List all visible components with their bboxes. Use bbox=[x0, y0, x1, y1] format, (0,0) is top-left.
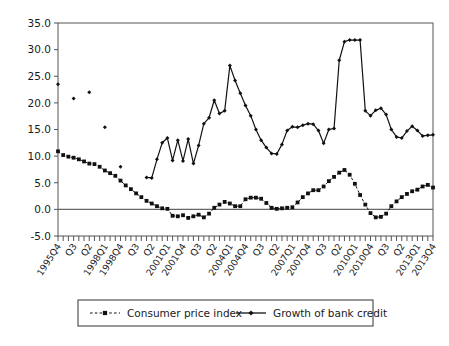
data-point bbox=[233, 204, 237, 208]
data-point bbox=[374, 215, 378, 219]
legend-label: Consumer price index bbox=[127, 307, 242, 319]
data-point bbox=[124, 184, 128, 188]
data-point bbox=[181, 213, 185, 217]
y-axis-ticks bbox=[54, 23, 58, 236]
data-point bbox=[285, 206, 289, 210]
data-point bbox=[301, 195, 305, 199]
data-point bbox=[244, 197, 248, 201]
legend-marker-square bbox=[103, 311, 107, 315]
x-tick-label: Q3 bbox=[125, 241, 141, 258]
data-point bbox=[379, 215, 383, 219]
data-point bbox=[431, 186, 435, 190]
data-point bbox=[400, 195, 404, 199]
data-point bbox=[369, 211, 373, 215]
y-tick-label: 10.0 bbox=[28, 150, 51, 162]
y-axis-labels: 35.030.025.020.015.010.05.00.0-5.0 bbox=[28, 17, 51, 242]
x-tick-label: 1995Q4 bbox=[34, 241, 63, 278]
data-point bbox=[150, 202, 154, 206]
data-point bbox=[363, 203, 367, 207]
y-tick-label: 0.0 bbox=[34, 203, 51, 215]
data-point bbox=[119, 179, 123, 183]
line-chart: 35.030.025.020.015.010.05.00.0-5.0 1995Q… bbox=[0, 0, 449, 346]
data-point bbox=[108, 171, 112, 175]
data-point bbox=[176, 214, 180, 218]
y-tick-label: -5.0 bbox=[31, 230, 52, 242]
y-tick-label: 20.0 bbox=[28, 97, 51, 109]
data-point bbox=[228, 202, 232, 206]
data-point bbox=[249, 196, 253, 200]
x-tick-label: Q3 bbox=[250, 241, 266, 258]
data-point bbox=[275, 207, 279, 211]
data-point bbox=[306, 192, 310, 196]
data-point bbox=[160, 206, 164, 210]
y-tick-label: 15.0 bbox=[28, 123, 51, 135]
data-point bbox=[264, 201, 268, 205]
y-tick-label: 30.0 bbox=[28, 43, 51, 55]
data-point bbox=[353, 182, 357, 186]
data-point bbox=[238, 204, 242, 208]
data-point bbox=[113, 174, 117, 178]
data-point bbox=[348, 173, 352, 177]
x-tick-label: Q3 bbox=[187, 241, 203, 258]
data-point bbox=[290, 205, 294, 209]
y-tick-label: 35.0 bbox=[28, 17, 51, 29]
data-point bbox=[405, 192, 409, 196]
data-point bbox=[410, 189, 414, 193]
data-point bbox=[129, 187, 133, 191]
data-point bbox=[165, 207, 169, 211]
plot-area bbox=[58, 23, 433, 236]
data-point bbox=[343, 168, 347, 172]
data-point bbox=[82, 160, 86, 164]
data-point bbox=[270, 206, 274, 210]
x-tick-label: Q3 bbox=[312, 241, 328, 258]
data-point bbox=[426, 183, 430, 187]
data-point bbox=[197, 213, 201, 217]
data-point bbox=[103, 169, 107, 173]
data-point bbox=[186, 216, 190, 220]
data-point bbox=[358, 193, 362, 197]
x-tick-label: Q3 bbox=[62, 241, 78, 258]
legend-label: Growth of bank credit bbox=[273, 307, 387, 319]
data-point bbox=[145, 199, 149, 203]
data-point bbox=[212, 206, 216, 210]
data-point bbox=[67, 155, 71, 159]
data-point bbox=[421, 185, 425, 189]
data-point bbox=[87, 162, 91, 166]
data-point bbox=[202, 215, 206, 219]
data-point bbox=[171, 214, 175, 218]
x-tick-label: Q3 bbox=[375, 241, 391, 258]
x-axis-labels: 1995Q4Q3Q21998Q11998Q4Q3Q22001Q12001Q4Q3… bbox=[34, 241, 438, 278]
data-point bbox=[72, 156, 76, 160]
y-tick-label: 25.0 bbox=[28, 70, 51, 82]
data-point bbox=[296, 201, 300, 205]
chart-legend: Consumer price indexGrowth of bank credi… bbox=[78, 300, 387, 326]
data-point bbox=[93, 162, 97, 166]
data-point bbox=[322, 185, 326, 189]
data-point bbox=[134, 192, 138, 196]
data-point bbox=[259, 197, 263, 201]
data-point bbox=[384, 212, 388, 216]
data-point bbox=[139, 195, 143, 199]
data-point bbox=[223, 200, 227, 204]
data-point bbox=[155, 204, 159, 208]
chart-container: 35.030.025.020.015.010.05.00.0-5.0 1995Q… bbox=[0, 0, 449, 346]
data-point bbox=[218, 203, 222, 207]
data-point bbox=[98, 165, 102, 169]
data-point bbox=[317, 188, 321, 192]
plot-frame bbox=[58, 23, 433, 236]
data-point bbox=[280, 206, 284, 210]
data-point bbox=[389, 204, 393, 208]
x-axis-ticks bbox=[58, 236, 433, 241]
data-point bbox=[254, 196, 258, 200]
data-point bbox=[56, 149, 60, 153]
data-point bbox=[395, 199, 399, 203]
data-point bbox=[415, 188, 419, 192]
y-tick-label: 5.0 bbox=[34, 177, 51, 189]
data-point bbox=[207, 212, 211, 216]
data-point bbox=[311, 188, 315, 192]
data-point bbox=[332, 175, 336, 179]
data-point bbox=[77, 157, 81, 161]
data-point bbox=[61, 153, 65, 157]
data-point bbox=[192, 214, 196, 218]
data-point bbox=[327, 179, 331, 183]
